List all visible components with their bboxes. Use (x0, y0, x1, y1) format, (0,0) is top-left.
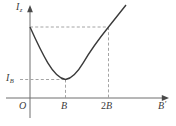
min-value-label: IB (6, 73, 14, 84)
y-axis-label-subscript: z (19, 6, 22, 13)
x-axis-label-prime: ′ (164, 99, 166, 109)
y-axis-arrowhead (27, 5, 33, 12)
origin-label: O (19, 101, 26, 111)
x-axis-label: B′ (158, 100, 166, 111)
inertia-curve (30, 5, 126, 80)
x-tick-label-b: B (61, 101, 67, 111)
x-tick-2b-symbol: B (106, 100, 112, 111)
y-axis-label: Iz (16, 2, 22, 13)
inertia-vs-axis-figure: Iz IB O B 2B B′ (0, 0, 176, 126)
plot-canvas (0, 0, 176, 126)
x-tick-b-symbol: B (61, 100, 67, 111)
x-tick-label-2b: 2B (101, 101, 112, 111)
min-value-label-subscript: B (9, 77, 13, 84)
